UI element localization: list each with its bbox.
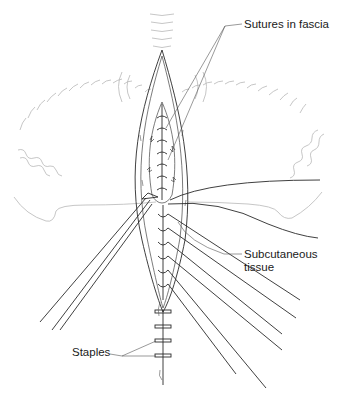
skin-staples — [155, 302, 171, 385]
label-sutures-in-fascia: Sutures in fascia — [244, 18, 329, 31]
label-subq-line2: tissue — [244, 261, 318, 274]
leader-staples — [110, 341, 156, 356]
surgical-diagram — [0, 0, 337, 394]
subcutaneous-sutures — [158, 205, 168, 300]
label-subcutaneous-tissue: Subcutaneous tissue — [244, 248, 318, 274]
label-staples: Staples — [72, 346, 110, 359]
abdomen-outline-left — [14, 79, 156, 221]
suture-threads-right — [168, 180, 320, 388]
skin-fold-marks-top — [150, 14, 174, 48]
leader-sutures — [166, 24, 242, 160]
label-subq-line1: Subcutaneous — [244, 248, 318, 261]
forceps-left — [40, 193, 158, 330]
fascia-sutures — [157, 104, 167, 200]
